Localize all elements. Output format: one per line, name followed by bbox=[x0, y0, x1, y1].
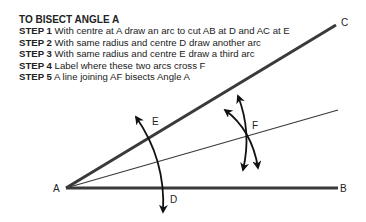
label-e: E bbox=[152, 116, 159, 127]
bisector-af bbox=[66, 110, 338, 188]
label-f: F bbox=[252, 120, 258, 131]
label-a: A bbox=[53, 183, 60, 194]
angle-bisection-diagram: A B C D E F bbox=[0, 0, 366, 222]
line-ac bbox=[66, 25, 336, 188]
label-d: D bbox=[170, 194, 177, 205]
label-c: C bbox=[341, 17, 348, 28]
arc-centre-e bbox=[225, 110, 258, 168]
label-b: B bbox=[340, 183, 347, 194]
